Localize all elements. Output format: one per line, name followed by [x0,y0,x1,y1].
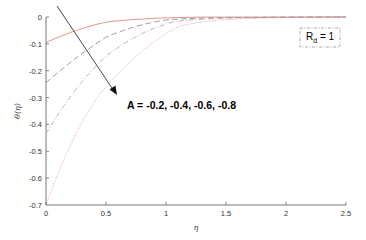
arrow-annotation [57,6,117,95]
x-tick-label: 0.5 [101,209,111,218]
y-tick-label: -0.7 [29,201,42,210]
x-tick-label: 2.5 [341,209,351,218]
x-tick-label: 1 [164,209,168,218]
y-axis-label: θ(η) [13,103,22,119]
x-ticks: 0 0.5 1 1.5 2 2.5 [44,202,351,218]
y-tick-label: 0 [38,13,42,22]
chart-canvas: 0 0.5 1 1.5 2 2.5 0 -0.1 -0.2 -0.3 -0.4 … [0,0,366,240]
x-tick-label: 0 [44,209,48,218]
y-tick-label: -0.6 [29,174,42,183]
y-tick-label: -0.3 [29,94,42,103]
arrow-line [57,6,114,91]
parameter-annotation: A = -0.2, -0.4, -0.6, -0.8 [127,99,236,111]
series-a-0.4 [46,17,346,83]
y-tick-label: -0.2 [29,67,42,76]
x-axis-label: η [194,223,199,232]
x-tick-label: 2 [284,209,288,218]
y-tick-label: -0.4 [29,120,42,129]
y-tick-label: -0.1 [29,40,42,49]
arrow-head-icon [110,86,118,96]
legend-box: Rd = 1 [300,28,340,47]
y-tick-label: -0.5 [29,147,42,156]
x-tick-label: 1.5 [221,209,231,218]
